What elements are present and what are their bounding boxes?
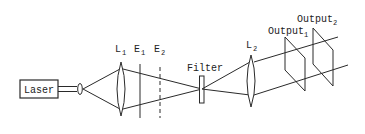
- output2-subscript: 2: [333, 19, 337, 27]
- laser-label: Laser: [24, 85, 54, 96]
- filter-label: Filter: [187, 63, 223, 74]
- plane-e2: E 2: [154, 44, 165, 118]
- output1-subscript: 1: [304, 31, 308, 39]
- laser-beam-tube: [58, 87, 77, 92]
- lens-l2: L 2: [246, 40, 257, 107]
- lens-l1: L 1: [115, 44, 126, 116]
- optical-setup-diagram: Laser L 1 E 1 E 2 Filter: [0, 0, 365, 134]
- output1-label: Output: [268, 26, 304, 37]
- lens-l1-subscript: 1: [122, 49, 126, 57]
- plane-e1-subscript: 1: [141, 49, 145, 57]
- diverging-rays: [83, 69, 120, 109]
- plane-e1: E 1: [134, 44, 145, 118]
- laser-source: Laser: [20, 80, 58, 98]
- plane-e2-label: E: [154, 44, 160, 55]
- lens-l2-subscript: 2: [253, 45, 257, 53]
- plane-e2-subscript: 2: [161, 49, 165, 57]
- output1-plane: Output 1: [268, 26, 308, 91]
- output2-label: Output: [297, 14, 333, 25]
- filter: Filter: [187, 63, 223, 103]
- lens-l2-label: L: [246, 40, 252, 51]
- plane-e1-label: E: [134, 44, 140, 55]
- small-focusing-lens: [78, 84, 83, 95]
- converging-rays: [123, 69, 202, 109]
- lens-l1-label: L: [115, 44, 121, 55]
